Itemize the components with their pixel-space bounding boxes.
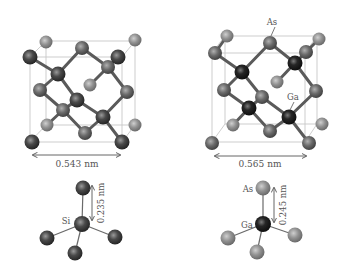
atoms xyxy=(23,34,142,150)
si-atom xyxy=(25,135,40,150)
as-atom xyxy=(221,231,236,246)
si-atom xyxy=(115,135,130,150)
si-atom xyxy=(76,181,91,196)
atoms xyxy=(205,30,329,151)
gaas-tetrahedron: As Ga 0.245 nm xyxy=(221,181,303,260)
crystal-structure-figure: 0.543 nm xyxy=(0,0,356,274)
si-atom xyxy=(75,41,89,55)
as-atom xyxy=(288,228,303,243)
si-atom xyxy=(68,246,83,261)
si-atom xyxy=(56,103,70,117)
ga-atom xyxy=(242,101,257,116)
gaas-lattice-constant-label: 0.565 nm xyxy=(239,159,282,169)
si-atom xyxy=(96,110,111,125)
as-atom-label: As xyxy=(266,17,278,27)
as-atom xyxy=(263,36,277,50)
si-atom xyxy=(120,85,134,99)
si-unit-cell: 0.543 nm xyxy=(23,34,142,170)
as-atom xyxy=(208,46,222,60)
si-atom xyxy=(129,34,142,47)
ga-leader-line xyxy=(290,102,294,110)
as-atom xyxy=(302,136,316,150)
as-atom xyxy=(250,245,265,260)
si-center-label: Si xyxy=(62,216,71,226)
si-tetrahedron: Si 0.235 nm xyxy=(40,181,123,261)
ga-atom xyxy=(282,110,297,125)
as-atom xyxy=(316,118,329,131)
ga-center-atom xyxy=(255,216,271,232)
as-atom xyxy=(227,119,240,132)
si-atom xyxy=(78,126,92,140)
si-atom xyxy=(84,79,97,92)
si-atom xyxy=(70,93,85,108)
gaas-center-label: Ga xyxy=(241,220,253,230)
si-atom xyxy=(41,119,54,132)
si-atom xyxy=(111,50,126,65)
as-atom xyxy=(309,84,323,98)
as-atom xyxy=(217,83,231,97)
si-atom xyxy=(129,119,142,132)
gaas-top-atom-label: As xyxy=(242,184,254,194)
si-atom xyxy=(23,50,38,65)
as-atom xyxy=(263,124,277,138)
as-atom xyxy=(299,45,313,59)
as-atom xyxy=(255,90,269,104)
si-atom xyxy=(40,231,55,246)
ga-atom-label: Ga xyxy=(287,92,299,102)
gaas-bond-length-label: 0.245 nm xyxy=(278,185,288,226)
gaas-unit-cell: As Ga 0.565 nm xyxy=(205,17,329,169)
ga-atom xyxy=(288,56,303,71)
si-atom xyxy=(108,230,123,245)
as-atom xyxy=(205,136,219,150)
as-atom xyxy=(221,30,234,43)
as-leader-line xyxy=(271,27,275,36)
si-atom xyxy=(33,83,47,97)
si-atom xyxy=(51,67,66,82)
as-atom xyxy=(313,33,326,46)
si-lattice-constant-label: 0.543 nm xyxy=(56,159,99,169)
ga-atom xyxy=(235,65,250,80)
si-center-atom xyxy=(74,216,90,232)
si-atom xyxy=(40,36,53,49)
si-bond-length-label: 0.235 nm xyxy=(96,183,106,224)
as-atom xyxy=(271,76,284,89)
as-atom xyxy=(256,181,271,196)
